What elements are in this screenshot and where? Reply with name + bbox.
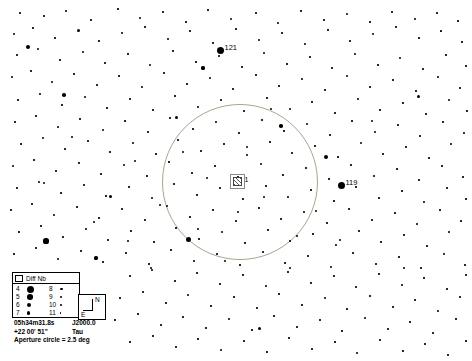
star-dot	[263, 52, 265, 54]
star-dot	[448, 231, 450, 233]
star-dot	[284, 262, 286, 264]
star-dot	[346, 308, 347, 309]
star-dot	[243, 340, 245, 342]
star-dot	[329, 134, 331, 136]
star-dot	[380, 241, 382, 243]
star-dot	[212, 42, 214, 44]
star-dot	[374, 131, 376, 133]
star-dot	[165, 302, 167, 304]
star-dot	[14, 121, 16, 123]
star-dot	[466, 110, 467, 111]
star-dot	[273, 315, 274, 316]
star-dot	[93, 221, 95, 223]
legend-column-faint: 891011	[46, 285, 79, 317]
star-dot	[220, 349, 222, 351]
star-dot	[354, 53, 356, 55]
star-dot	[187, 294, 189, 296]
legend-row: 10	[49, 301, 79, 309]
star-dot	[251, 329, 253, 331]
star-dot	[443, 253, 445, 255]
star-dot	[193, 260, 195, 262]
star-dot	[330, 266, 332, 268]
star-dot	[11, 76, 13, 78]
star-dot	[372, 33, 374, 35]
star-dot	[109, 151, 110, 152]
star-dot	[460, 220, 461, 221]
star-dot	[337, 156, 338, 157]
star-dot	[144, 219, 146, 221]
star-dot	[409, 321, 410, 322]
star-dot	[169, 117, 171, 119]
star-dot	[403, 267, 406, 270]
star-dot	[459, 296, 461, 298]
legend-magnitude-label: 11	[49, 309, 60, 317]
star-dot	[465, 65, 467, 67]
star-dot	[127, 53, 128, 54]
legend-magnitude-label: 7	[16, 309, 27, 317]
star-dot	[230, 18, 232, 20]
star-dot	[462, 176, 463, 177]
star-dot	[432, 332, 434, 334]
star-dot	[441, 165, 443, 167]
star-dot	[195, 61, 196, 62]
star-dot	[32, 27, 33, 28]
star-dot	[319, 319, 321, 321]
star-dot	[315, 210, 317, 212]
star-dot	[57, 258, 59, 260]
legend-magnitude-dot	[60, 312, 61, 313]
star-dot	[26, 45, 30, 49]
star-dot	[160, 324, 162, 326]
star-dot	[309, 56, 311, 58]
star-dot	[218, 55, 220, 57]
star-dot	[304, 43, 306, 45]
star-dot	[352, 252, 354, 254]
star-dot	[405, 146, 407, 148]
star-dot	[83, 184, 85, 186]
star-dot	[422, 68, 424, 70]
star-dot	[197, 338, 198, 339]
star-dot	[350, 164, 352, 166]
star-dot	[96, 84, 98, 86]
star-dot	[38, 181, 40, 183]
star-dot	[402, 350, 403, 351]
star-dot	[323, 19, 325, 21]
star-dot	[43, 182, 45, 184]
star-dot	[163, 72, 165, 74]
star-dot	[205, 327, 206, 328]
star-dot	[373, 175, 375, 177]
legend-row: 11	[49, 309, 79, 317]
star-dot	[436, 12, 438, 14]
star-dot	[465, 274, 467, 276]
star-dot	[18, 231, 19, 232]
star-dot	[118, 75, 119, 76]
star-dot	[437, 76, 439, 78]
dec-value: +22 00' 51"	[14, 328, 72, 337]
legend-magnitude-dot	[27, 311, 30, 314]
star-dot	[42, 137, 45, 140]
star-dot	[258, 327, 261, 330]
star-dot	[397, 124, 399, 126]
star-dot	[310, 282, 311, 283]
star-dot	[312, 233, 313, 234]
aperture-note: Aperture circle = 2.5 deg	[14, 336, 96, 345]
star-dot	[197, 106, 199, 108]
star-dot	[98, 217, 99, 218]
legend-magnitude-label: 10	[49, 301, 60, 309]
star-dot	[117, 8, 118, 9]
star-dot	[266, 351, 267, 352]
constellation-value: Tau	[72, 328, 83, 337]
star-dot	[464, 264, 465, 265]
star-dot	[53, 214, 55, 216]
star-dot	[13, 253, 15, 255]
star-dot	[415, 90, 416, 91]
star-dot	[255, 74, 256, 75]
star-dot	[59, 59, 60, 60]
star-dot	[391, 11, 392, 12]
star-dot	[80, 250, 82, 252]
legend-magnitude-dot	[60, 296, 62, 298]
star-dot	[146, 175, 148, 177]
star-dot	[90, 19, 92, 21]
deep-sky-object-marker	[233, 177, 242, 186]
ra-value: 05h34m31.8s	[14, 319, 72, 328]
star-dot	[98, 40, 100, 42]
